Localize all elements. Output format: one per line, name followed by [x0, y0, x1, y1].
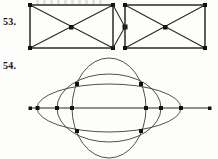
- fig53-vertex-right-br: [203, 46, 207, 50]
- fig54-vertex-wide-left-tip: [36, 106, 40, 110]
- fig54-vertex-lower-right: [139, 129, 143, 133]
- fig54-vertex-medium-right-tip: [159, 106, 163, 110]
- figure-53: [28, 3, 207, 50]
- fig53-vertex-right-center: [163, 25, 168, 30]
- fig54-vertex-medium-left-tip: [55, 106, 59, 110]
- fig54-vertex-tall-right-tip: [144, 106, 148, 110]
- fig54-vertex-upper-right: [139, 82, 143, 86]
- fig53-left-block: [28, 3, 115, 50]
- fig53-connector-edge-top: [113, 5, 125, 27]
- fig53-vertex-right-tr: [203, 3, 207, 7]
- figure-page: 53. 54.: [0, 0, 218, 159]
- fig54-vertex-tall-left-tip: [70, 106, 74, 110]
- figure-54: [29, 58, 212, 158]
- fig54-vertex-axis-far-right: [208, 107, 212, 111]
- figures-canvas: [0, 0, 218, 159]
- fig53-connector-edge-bottom: [113, 27, 125, 48]
- fig54-vertex-upper-left: [75, 82, 79, 86]
- fig53-vertex-left-tl: [28, 3, 32, 7]
- fig53-vertex-left-bl: [28, 46, 32, 50]
- fig53-right-block: [123, 3, 207, 50]
- fig54-vertex-lower-left: [75, 129, 79, 133]
- fig53-vertex-right-tl: [123, 3, 127, 7]
- fig53-vertex-left-center: [69, 25, 74, 30]
- fig53-vertex-right-bl: [123, 46, 127, 50]
- fig54-vertex-axis-far-left: [29, 107, 33, 111]
- fig54-vertex-wide-right-tip: [179, 106, 183, 110]
